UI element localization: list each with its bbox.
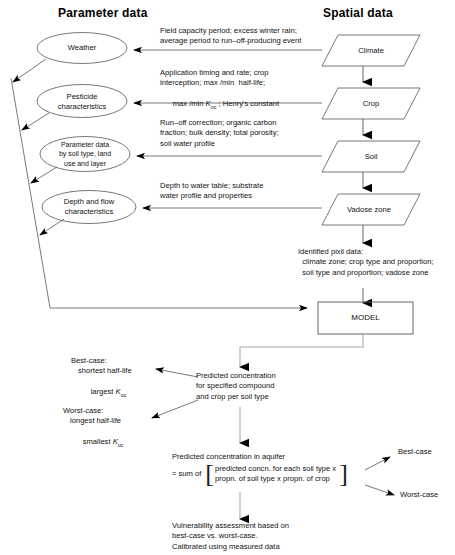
koc-suffix-crop: ; Henry's constant — [216, 99, 279, 108]
annotation-soil-to-soil-parameters: Run–off correction; organic carbon fract… — [160, 118, 279, 149]
annotation-vadose-to-depth-flow: Depth to water table; substrate water pr… — [160, 181, 263, 202]
node-label-climate: Climate — [326, 36, 416, 65]
outcome-label-worst-case: Worst-case — [400, 490, 438, 500]
annotation-crop-to-pesticide: Application timing and rate; crop interc… — [160, 68, 279, 123]
worst-case-block: Worst-case: longest half-life smallest K… — [63, 406, 123, 461]
pixel-data-annotation: Identified pixil data: climate zone; cro… — [298, 247, 434, 278]
node-label-soil-parameters: Parameter data by soil type, land use an… — [40, 136, 130, 172]
node-label-pesticide: Pesticide characteristics — [37, 85, 127, 118]
koc-prefix-crop: max /min — [173, 99, 206, 108]
outcome-label-best-case: Best-case — [398, 447, 432, 457]
aquifer-equation-block: Predicted concentration in aquifer = sum… — [172, 452, 348, 485]
model-box-label: MODEL — [318, 302, 413, 334]
worst-case-koc-subscript: oc — [118, 442, 124, 448]
arrow-bracket-to-best-case — [365, 457, 390, 470]
arrow-bracket-to-worst-case — [365, 485, 394, 495]
arrow-model-to-predicted-concentration — [240, 334, 363, 367]
node-label-soil: Soil — [326, 142, 416, 171]
arrow-to-best-case — [156, 369, 198, 377]
header-parameter-data: Parameter data — [58, 6, 148, 20]
node-label-vadose-zone: Vadose zone — [324, 195, 414, 224]
best-case-koc-prefix: largest — [91, 387, 116, 396]
node-label-crop: Crop — [326, 89, 416, 118]
node-label-weather: Weather — [37, 33, 127, 63]
conclusion-block: Vulnerability assessment based on best-c… — [172, 521, 289, 552]
annotation-climate-to-weather: Field capacity period; excess winter rai… — [160, 26, 301, 47]
bracket-open: [ — [205, 463, 214, 485]
worst-case-koc-prefix: smallest — [83, 437, 113, 446]
arrow-to-worst-case — [152, 400, 198, 418]
predicted-concentration-block: Predicted concentration for specified co… — [196, 371, 276, 402]
best-case-block: Best-case: shortest half-life largest Ko… — [71, 356, 132, 411]
bracket-close: ] — [339, 463, 348, 485]
best-case-koc-subscript: oc — [121, 392, 127, 398]
header-spatial-data: Spatial data — [323, 6, 393, 20]
node-label-depth-flow: Depth and flow characteristics — [42, 190, 136, 224]
flowchart-canvas: Parameter data Spatial data Weather Pest… — [0, 0, 455, 555]
